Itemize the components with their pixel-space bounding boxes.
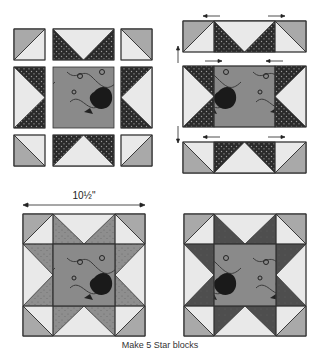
step-4-finished-block-dark [184,214,306,336]
center-square [53,244,115,306]
center-square [214,244,276,306]
row-top [183,21,306,52]
step-2-sewn-rows [177,15,307,174]
step-3-finished-block-medium [23,203,145,336]
hst-unit [121,135,152,166]
row-bottom [183,142,306,173]
row-middle [183,66,306,127]
flying-geese-unit [121,67,152,128]
step-1-layout [14,29,152,166]
flying-geese-unit [53,135,114,166]
hst-unit [121,29,152,60]
flying-geese-unit [14,67,45,128]
hst-unit [14,29,45,60]
center-square [53,67,114,128]
dimension-label: 10½" [54,190,114,201]
hst-unit [14,135,45,166]
figure-caption: Make 5 Star blocks [0,340,320,350]
flying-geese-unit [53,29,114,60]
dimension-arrow [23,203,145,207]
